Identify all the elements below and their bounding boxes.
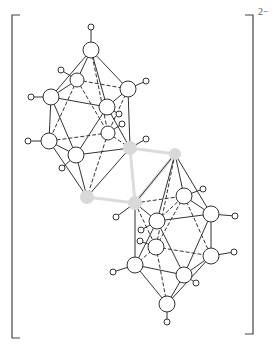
boron-atom [43, 89, 59, 105]
boron-atom [99, 99, 115, 115]
bridge-bond [87, 197, 135, 203]
boron-atom [70, 73, 84, 87]
hydrogen-atom [59, 165, 65, 171]
right-bracket [245, 15, 253, 334]
cage-bond [91, 50, 108, 133]
cage-bond [156, 247, 167, 304]
hydrogen-atom [143, 78, 149, 84]
cage-bond [135, 154, 175, 203]
carbon-atom [169, 148, 181, 160]
boron-atom [101, 126, 115, 140]
boron-atom [41, 133, 57, 149]
boron-atom [203, 248, 219, 264]
boron-atom [176, 267, 192, 283]
hydrogen-atom [110, 269, 116, 275]
bridge-bond [130, 148, 135, 203]
hydrogen-atom [137, 238, 143, 244]
cage-bond [51, 97, 107, 107]
hydrogen-atom [116, 111, 122, 117]
carbon-atom [123, 141, 137, 155]
atoms [41, 42, 219, 312]
hydrogen-atom [231, 249, 237, 255]
hydrogen-atom [88, 24, 94, 30]
hydrogen-atom [58, 67, 64, 73]
boron-atom [148, 239, 164, 255]
hydrogen-atom [28, 94, 34, 100]
carborane-dimer-diagram [0, 0, 277, 344]
boron-atom [68, 147, 84, 163]
hydrogen-atom [143, 136, 149, 142]
cage-bond [87, 133, 108, 197]
hydrogen-atom [193, 280, 199, 286]
boron-atom [83, 42, 99, 58]
cage-bond [128, 89, 130, 148]
carbon-atom [128, 196, 142, 210]
boron-atom [127, 257, 143, 273]
left-bracket [12, 15, 20, 338]
boron-atom [149, 213, 165, 229]
boron-atom [120, 81, 136, 97]
cage-bond [51, 50, 91, 97]
cage-bond [49, 133, 108, 141]
hydrogen-atom [113, 214, 119, 220]
hydrogen-atom [232, 213, 238, 219]
boron-atom [159, 296, 175, 312]
boron-atom [203, 206, 219, 222]
hydrogen-atom [119, 121, 125, 127]
hydrogen-atom [138, 227, 144, 233]
hydrogen-atom [200, 186, 206, 192]
carbon-atom [80, 190, 94, 204]
cage-bond [87, 148, 130, 197]
hydrogen-atom [25, 138, 31, 144]
charge-label: 2− [258, 6, 269, 17]
boron-atom [176, 188, 192, 204]
hydrogen-atom [164, 319, 170, 325]
cage-bond [175, 154, 211, 214]
